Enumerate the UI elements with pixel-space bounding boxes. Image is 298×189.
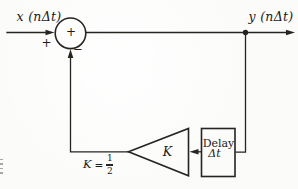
output-signal-label: y (nΔt) <box>249 11 294 24</box>
input-signal-label: x (nΔt) <box>17 11 62 24</box>
input-arrowhead-icon <box>46 30 55 36</box>
fraction-numerator: 1 <box>107 154 113 163</box>
equation-equals-sign: = <box>95 160 104 171</box>
feedback-tap-wire <box>236 33 246 153</box>
output-arrowhead-icon <box>286 30 295 36</box>
fraction-denominator: 2 <box>107 167 113 176</box>
summer-minus-feedback-sign: − <box>73 44 83 56</box>
gain-label: K <box>163 145 172 158</box>
gain-value-equation: K = 1 2 <box>83 153 113 177</box>
delay-to-gain-arrowhead-icon <box>190 149 199 155</box>
summer-plus-input-sign: + <box>41 37 51 49</box>
diagram-wires <box>0 0 298 189</box>
gain-triangle <box>129 129 189 176</box>
feedback-return-wire <box>71 58 129 152</box>
equation-fraction: 1 2 <box>106 154 113 175</box>
block-diagram-figure: x (nΔt) y (nΔt) + + − Delay Δt K K = 1 2 <box>0 0 298 189</box>
equation-lhs: K <box>83 159 92 171</box>
summer-plus-center-sign: + <box>66 26 76 38</box>
delay-time-label: Δt <box>208 148 220 159</box>
scan-edge-artifact <box>0 159 3 174</box>
